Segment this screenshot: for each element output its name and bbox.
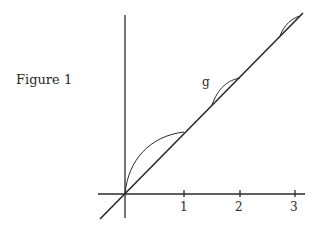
tick-label-1: 1 [180,200,188,214]
diagram-canvas: g 1 2 3 [0,0,325,233]
diagonal-line [100,13,303,219]
tick-label-3: 3 [290,200,298,214]
curve-label-g: g [202,75,210,89]
tick-label-2: 2 [235,200,243,214]
